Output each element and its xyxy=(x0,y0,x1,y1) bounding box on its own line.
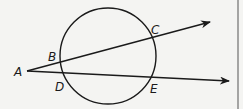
label-a: A xyxy=(13,65,22,79)
circle xyxy=(60,8,156,104)
label-c: C xyxy=(151,23,160,37)
label-d: D xyxy=(55,80,64,94)
secant-diagram: A B C D E xyxy=(0,0,243,109)
label-e: E xyxy=(150,82,158,96)
label-b: B xyxy=(48,50,56,64)
